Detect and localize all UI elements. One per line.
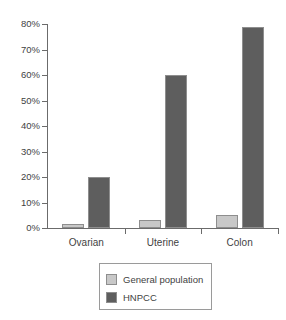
x-axis-label-uterine: Uterine — [125, 237, 202, 249]
plot-area — [48, 24, 278, 228]
bar-colon-general-population — [216, 215, 238, 228]
y-axis-tick-label: 70% — [0, 45, 40, 55]
bar-ovarian-hnpcc — [88, 177, 110, 228]
legend-item-general-population[interactable]: General population — [106, 271, 211, 287]
bar-uterine-general-population — [139, 220, 161, 228]
x-axis-label-ovarian: Ovarian — [48, 237, 125, 249]
y-axis-tick-label: 40% — [0, 121, 40, 131]
y-axis-tick-label: 20% — [0, 172, 40, 182]
bar-colon-hnpcc — [242, 27, 264, 228]
bar-chart-figure: 0%10%20%30%40%50%60%70%80% OvarianUterin… — [0, 0, 286, 320]
bar-ovarian-general-population — [62, 224, 84, 228]
y-axis-tick-label: 0% — [0, 223, 40, 233]
legend-item-label: General population — [123, 274, 203, 285]
legend-item-label: HNPCC — [123, 292, 157, 303]
x-axis-label-colon: Colon — [201, 237, 278, 249]
x-axis-tick — [278, 228, 279, 234]
y-axis-tick-label: 10% — [0, 198, 40, 208]
x-axis-tick — [125, 228, 126, 234]
y-axis-tick-label: 50% — [0, 96, 40, 106]
x-axis-tick — [201, 228, 202, 234]
bar-uterine-hnpcc — [165, 75, 187, 228]
chart-legend: General populationHNPCC — [99, 263, 212, 310]
y-axis-tick-label: 80% — [0, 19, 40, 29]
legend-swatch-hnpcc — [106, 292, 117, 303]
x-axis-line — [47, 228, 278, 229]
y-axis-tick-label: 30% — [0, 147, 40, 157]
legend-item-hnpcc[interactable]: HNPCC — [106, 289, 211, 305]
legend-swatch-general-population — [106, 274, 117, 285]
y-axis-tick-label: 60% — [0, 70, 40, 80]
